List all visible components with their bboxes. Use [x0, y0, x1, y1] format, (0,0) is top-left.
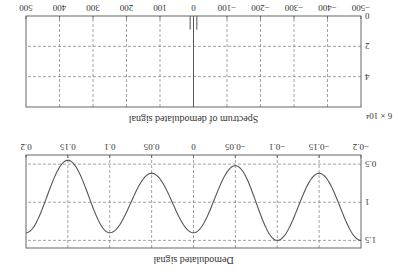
x-tick-label: 0	[191, 142, 196, 152]
x-tick-label: 0.05	[143, 142, 159, 152]
x-tick-label: 0	[191, 3, 196, 13]
figure: Demodulated signal −0.2−0.15−0.1−0.0500.…	[0, 0, 398, 279]
x-tick-label: 0.2	[20, 142, 31, 152]
demodulated-signal-plot: Demodulated signal −0.2−0.15−0.1−0.0500.…	[20, 142, 376, 266]
spectrum-title: Spectrum of demodulated signal	[128, 114, 258, 125]
y-tick-label: 2	[365, 41, 370, 51]
chart-canvas: Demodulated signal −0.2−0.15−0.1−0.0500.…	[0, 0, 398, 279]
x-tick-label: −400	[318, 3, 337, 13]
demodulated-y-ticks: 0.511.5	[365, 159, 377, 245]
x-tick-label: −100	[217, 3, 236, 13]
x-tick-label: −0.15	[308, 142, 329, 152]
y-tick-label: 1.5	[365, 235, 377, 245]
x-tick-label: 300	[86, 3, 100, 13]
x-tick-label: 200	[119, 3, 133, 13]
spectrum-plot: Spectrum of demodulated signal 6 × 10⁴ −…	[19, 3, 392, 125]
demodulated-x-ticks: −0.2−0.15−0.1−0.0500.050.10.150.2	[20, 142, 369, 158]
x-tick-label: 500	[19, 3, 33, 13]
x-tick-label: 400	[52, 3, 66, 13]
spectrum-y-ticks: 024	[365, 11, 370, 82]
y-tick-label: 0	[365, 11, 370, 21]
demodulated-grid	[26, 155, 361, 248]
demodulated-signal-title: Demodulated signal	[153, 255, 233, 266]
x-tick-label: 0.15	[60, 142, 76, 152]
spectrum-spikes	[190, 16, 197, 107]
spectrum-scale-label: 6 × 10⁴	[366, 111, 392, 121]
x-tick-label: −0.1	[269, 142, 285, 152]
y-tick-label: 1	[365, 197, 370, 207]
y-tick-label: 4	[365, 72, 370, 82]
x-tick-label: −200	[251, 3, 270, 13]
x-tick-label: 100	[153, 3, 167, 13]
x-tick-label: −0.05	[224, 142, 245, 152]
y-tick-label: 0.5	[365, 159, 377, 169]
x-tick-label: −0.2	[353, 142, 369, 152]
x-tick-label: −300	[284, 3, 303, 13]
x-tick-label: 0.1	[104, 142, 115, 152]
spectrum-x-ticks: −500−400−300−200−1000100200300400500	[19, 3, 371, 19]
